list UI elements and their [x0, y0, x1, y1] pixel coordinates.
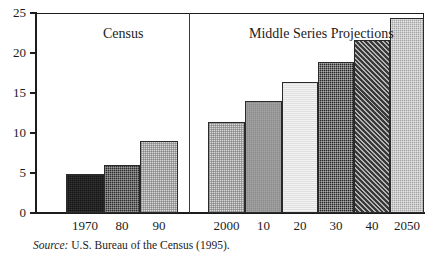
x-tick-label-80: 80: [104, 219, 140, 233]
source-text: U.S. Bureau of the Census (1995).: [71, 239, 229, 251]
bar-40: [354, 40, 390, 213]
source-label: Source:: [33, 239, 68, 251]
x-tick-label-30: 30: [318, 219, 354, 233]
bar-80: [104, 165, 140, 213]
figure-container: 0510152025 197080902000102030402050 Cens…: [0, 0, 437, 258]
x-tick-label-2000: 2000: [208, 219, 245, 233]
x-tick-label-90: 90: [140, 219, 178, 233]
panel-title-projections: Middle Series Projections: [249, 26, 394, 42]
source-note: Source: U.S. Bureau of the Census (1995)…: [33, 238, 230, 252]
panel-title-census: Census: [103, 26, 143, 42]
bar-30: [318, 62, 354, 213]
x-tick-label-10: 10: [245, 219, 282, 233]
x-tick-label-1970: 1970: [66, 219, 104, 233]
bar-2000: [208, 122, 245, 213]
x-tick-label-40: 40: [354, 219, 390, 233]
bar-20: [282, 82, 318, 213]
bar-1970: [66, 174, 104, 213]
bar-10: [245, 101, 282, 213]
x-tick-label-20: 20: [282, 219, 318, 233]
x-tick-label-2050: 2050: [390, 219, 424, 233]
bar-90: [140, 141, 178, 213]
bar-2050: [390, 18, 424, 213]
